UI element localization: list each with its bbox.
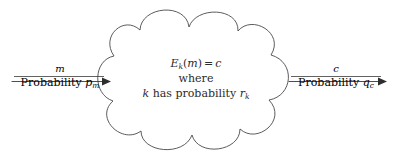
- ciphertext-result: c: [215, 57, 221, 70]
- output-probability-text: Probability: [298, 76, 359, 89]
- encryption-equation-line: Ek(m)=c: [118, 56, 274, 71]
- cloud-text-block: Ek(m)=c where k has probability rk: [118, 56, 274, 101]
- key-probability-line: k has probability rk: [118, 86, 274, 101]
- key-probability-text: has probability: [153, 87, 237, 100]
- input-probability-text: Probability: [21, 76, 82, 89]
- where-keyword: where: [179, 72, 214, 85]
- key-symbol: k: [142, 87, 149, 100]
- input-arrow-top-label: m: [8, 62, 112, 75]
- where-keyword-line: where: [118, 71, 274, 86]
- equals-sign: =: [202, 57, 215, 70]
- input-probability-subscript: m: [92, 81, 99, 90]
- plaintext-argument: m: [187, 57, 197, 70]
- ciphertext-symbol: c: [333, 63, 339, 74]
- output-arrow-bottom-label: Probability qc: [284, 75, 388, 90]
- output-probability-symbol: q: [363, 76, 370, 89]
- encryption-function-symbol: E: [171, 57, 179, 70]
- output-arrow-top-label: c: [284, 62, 388, 75]
- key-probability-subscript: k: [245, 92, 250, 101]
- input-arrow-label: m Probability pm: [8, 62, 112, 90]
- output-arrow-label: c Probability qc: [284, 62, 388, 90]
- input-arrow-bottom-label: Probability pm: [8, 75, 112, 90]
- output-probability-subscript: c: [370, 81, 374, 90]
- plaintext-symbol: m: [55, 63, 64, 74]
- cryptosystem-diagram: Ek(m)=c where k has probability rk m Pro…: [0, 0, 396, 163]
